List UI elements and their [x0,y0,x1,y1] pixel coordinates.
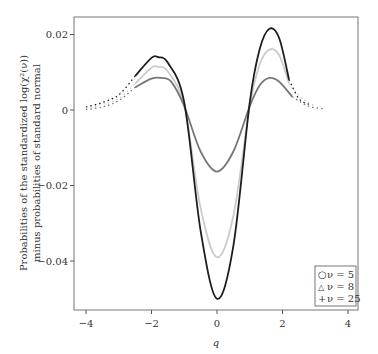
x-tick-label: 2 [279,318,285,329]
x-axis-title: q [213,337,219,348]
legend-marker-v5: ○ [318,269,327,280]
legend-label-v5: ν = 5 [327,269,354,280]
series-tail-markers [289,80,309,105]
x-tick-label: −4 [79,318,94,329]
y-axis-ticks: 0.020−0.02−0.04 [37,29,74,267]
series-line [135,28,289,299]
y-axis-title-line1: Probabilities of the standardized log(χ²… [18,55,29,271]
x-tick-label: 4 [345,318,351,329]
legend-marker-v8: △ [318,283,325,292]
chart: −4−2024 0.020−0.02−0.04 q Probabilities … [0,0,378,354]
legend-marker-v25: + [318,293,326,304]
series-tail-markers [289,84,315,107]
legend-label-v25: ν = 25 [327,293,361,304]
y-tick-label: 0.02 [46,29,68,40]
series-tail-markers [86,84,135,109]
y-axis-title-line2: minus probabilities of standard normal [31,64,42,262]
series-lines [86,28,325,299]
x-tick-label: −2 [144,318,159,329]
x-axis-ticks: −4−2024 [79,310,352,329]
x-tick-label: 0 [214,318,220,329]
series-line [135,49,289,257]
legend-label-v8: ν = 8 [327,281,354,292]
y-tick-label: 0 [62,105,68,116]
series-line [135,78,292,172]
legend: ○ ν = 5 △ ν = 8 + ν = 25 [315,266,361,306]
